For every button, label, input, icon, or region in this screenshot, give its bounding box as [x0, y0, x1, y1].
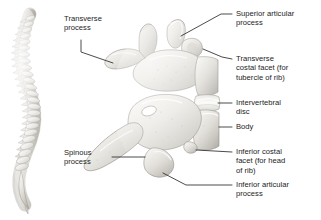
vertebral-column-inset [6, 8, 46, 214]
label-inferior-articular-process: Inferior articular process [236, 180, 289, 199]
label-inferior-costal-facet: Inferior costal facet (for head of rib) [236, 147, 285, 175]
anatomical-figure: Transverse process Spinous process Super… [0, 0, 321, 220]
label-spinous-process: Spinous process [64, 148, 92, 167]
label-intervertebral-disc: Intervertebral disc [236, 98, 281, 117]
label-transverse-costal-facet: Transverse costal facet (for tubercle of… [236, 54, 288, 82]
label-transverse-process: Transverse process [64, 14, 102, 33]
label-body: Body [236, 122, 253, 131]
thoracic-vertebrae-specimen [84, 20, 224, 178]
label-superior-articular-process: Superior articular process [236, 9, 294, 28]
